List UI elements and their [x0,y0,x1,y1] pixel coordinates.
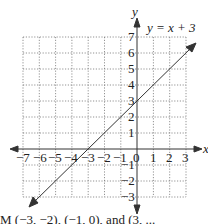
grid [23,37,186,197]
x-axis-right-arrow-icon [194,146,202,152]
y-tick: 2 [128,109,135,124]
x-tick: −3 [81,150,95,165]
y-tick: −2 [121,173,135,188]
x-tick: 2 [166,150,173,165]
x-tick: 1 [150,150,157,165]
bottom-caption: M (−3, −2), (−1, 0), and (3, ... [0,212,155,224]
y-tick: 4 [128,77,135,92]
y-tick: 6 [128,45,135,60]
y-tick: −1 [121,157,135,172]
x-tick: 3 [182,150,189,165]
y-tick-labels: 7 6 5 4 3 2 1 −1 −2 −3 [121,29,135,204]
y-tick: 1 [128,125,135,140]
graph: y x y = x + 3 −7 −6 −5 −4 −3 −2 −1 0 1 2… [0,0,208,224]
equation-label: y = x + 3 [145,20,196,35]
line-y-equals-x-plus-3 [29,43,196,207]
x-tick-labels: −7 −6 −5 −4 −3 −2 −1 0 1 2 3 [16,150,189,165]
y-tick: 7 [128,29,135,44]
x-tick: −7 [16,150,30,165]
x-tick: −5 [48,150,62,165]
y-axis-label: y [130,4,138,19]
y-tick: −3 [121,189,135,204]
x-axis-label: x [202,141,208,156]
y-tick: 3 [128,93,135,108]
line-end-arrow-icon [186,43,196,52]
x-tick: −4 [64,150,78,165]
x-tick: −2 [97,150,111,165]
y-tick: 5 [128,61,135,76]
x-tick: −6 [33,150,47,165]
line-start-arrow-icon [29,197,38,207]
y-axis-up-arrow-icon [134,18,140,27]
axes [10,18,202,214]
